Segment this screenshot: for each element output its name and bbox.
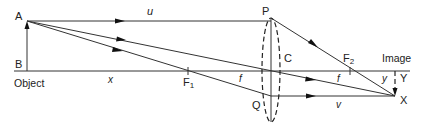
- label-y: y: [381, 73, 388, 84]
- label-X: X: [400, 94, 408, 106]
- label-f-right: f: [337, 73, 341, 84]
- label-C: C: [284, 52, 292, 64]
- label-x: x: [107, 74, 114, 85]
- label-u: u: [147, 5, 153, 17]
- ray-arrowhead-icon: [308, 39, 318, 48]
- label-Q: Q: [252, 99, 261, 111]
- label-image: Image: [382, 52, 411, 64]
- label-P: P: [262, 5, 269, 17]
- label-A: A: [15, 10, 23, 22]
- label-Y: Y: [400, 72, 408, 84]
- label-F2: F2: [343, 52, 355, 66]
- label-v: v: [336, 99, 342, 110]
- label-B: B: [15, 58, 22, 70]
- label-F1: F1: [183, 76, 195, 90]
- ray-through-f1: [27, 21, 271, 96]
- ray-arrowhead-icon: [306, 94, 316, 99]
- object-arrowhead-icon: [25, 21, 30, 29]
- ray-arrowhead-icon: [305, 77, 316, 82]
- ray-arrowhead-icon: [115, 19, 125, 24]
- ray-through-centre: [27, 21, 395, 96]
- label-object: Object: [14, 77, 44, 89]
- optics-ray-diagram: A B Object u x P C Q f f y v F1 F2 Image…: [0, 0, 422, 127]
- label-f-left: f: [239, 73, 243, 84]
